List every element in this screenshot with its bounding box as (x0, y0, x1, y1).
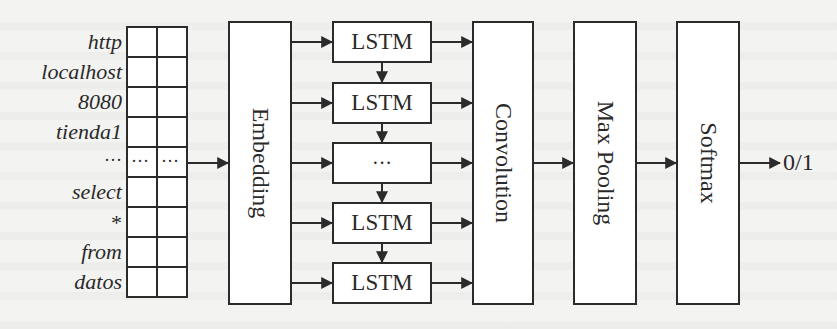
softmax-label: Softmax (695, 122, 722, 203)
lstm-cell-label: LSTM (333, 83, 431, 123)
input-token: from (81, 237, 122, 267)
lstm-cell-label: LSTM (333, 22, 431, 62)
input-token: datos (74, 267, 122, 297)
input-token: select (72, 177, 122, 207)
lstm-cell-label: LSTM (333, 203, 431, 243)
lstm-cell-ellipsis: ··· (333, 143, 431, 183)
convolution-label: Convolution (490, 103, 517, 223)
input-token: 8080 (78, 87, 122, 117)
embedding-label: Embedding (247, 108, 274, 219)
grid-cell-ellipsis: ··· (131, 151, 149, 171)
input-token: localhost (41, 57, 122, 87)
input-token: tienda1 (56, 117, 122, 147)
grid-cell-ellipsis: ··· (161, 151, 179, 171)
output-label: 0/1 (783, 149, 814, 176)
input-token-ellipsis: ··· (104, 145, 122, 175)
max-pooling-label: Max Pooling (592, 101, 619, 226)
input-token: http (88, 27, 122, 57)
lstm-cell-label: LSTM (333, 263, 431, 303)
input-token: * (111, 208, 122, 238)
